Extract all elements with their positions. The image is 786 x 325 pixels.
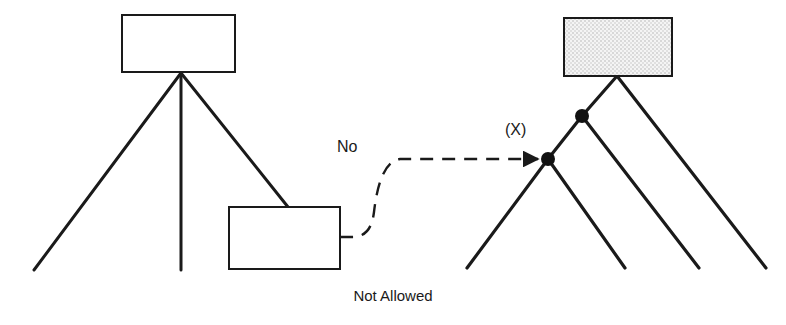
tree-node-x [541,152,555,166]
diagram-canvas: No (X) Not Allowed [0,0,786,325]
stippled-box [564,18,672,76]
figure-caption: Not Allowed [0,288,786,303]
tree-edge-box-to-leaf-4 [617,76,766,268]
right-node-tree [467,18,766,268]
diagram-graphics [0,0,786,325]
left-box-hierarchy [34,15,340,270]
tree-node-upper [575,109,589,123]
tree-edge-box-to-upper-node [582,76,617,116]
left-top-box [122,15,235,72]
tree-edge-lower-node-to-leaf-1 [467,159,548,268]
tree-edge-lower-node-to-leaf-2 [548,159,625,268]
dashed-no-arrow-path [340,159,538,237]
tree-edge-upper-node-to-lower-node [548,116,582,159]
left-lower-box [229,207,340,269]
label-target-node-x: (X) [505,122,526,138]
label-no: No [337,139,357,155]
rejected-dashed-connection [340,159,538,237]
left-hierarchy-branch-left [34,73,181,270]
left-hierarchy-branch-to-lower-box [181,73,288,207]
tree-edge-upper-node-to-leaf-3 [582,116,699,268]
